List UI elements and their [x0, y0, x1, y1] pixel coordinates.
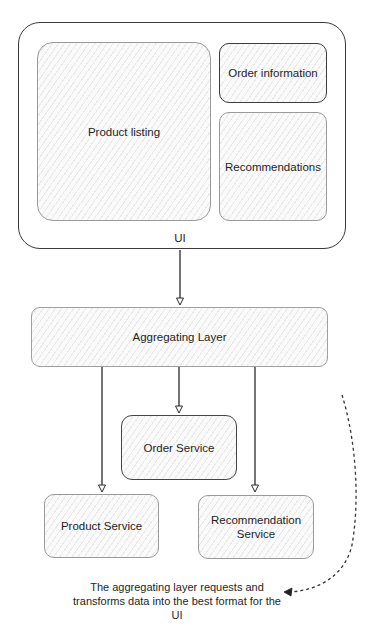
order-information-label: Order information: [228, 66, 317, 80]
arrow-ui-to-aggregating: [177, 250, 184, 305]
recommendations-label: Recommendations: [225, 160, 321, 174]
aggregating-layer-box: Aggregating Layer: [31, 307, 328, 367]
order-service-label: Order Service: [144, 441, 215, 455]
product-listing-label: Product listing: [88, 125, 160, 139]
aggregating-layer-label: Aggregating Layer: [133, 330, 227, 344]
product-service-label: Product Service: [61, 519, 142, 533]
order-information-box: Order information: [219, 43, 327, 103]
order-service-box: Order Service: [121, 415, 237, 480]
recommendations-box: Recommendations: [219, 112, 327, 221]
product-service-box: Product Service: [44, 494, 159, 558]
recommendation-service-box: Recommendation Service: [198, 495, 314, 559]
recommendation-service-label: Recommendation Service: [211, 513, 301, 541]
arrow-aggregating-to-recommendation-service: [252, 367, 259, 492]
product-listing-box: Product listing: [37, 42, 211, 221]
arrow-aggregating-to-order-service: [176, 367, 183, 413]
annotation-text: The aggregating layer requests and trans…: [72, 580, 282, 622]
ui-label: UI: [168, 232, 192, 244]
arrow-aggregating-to-product-service: [99, 367, 106, 492]
